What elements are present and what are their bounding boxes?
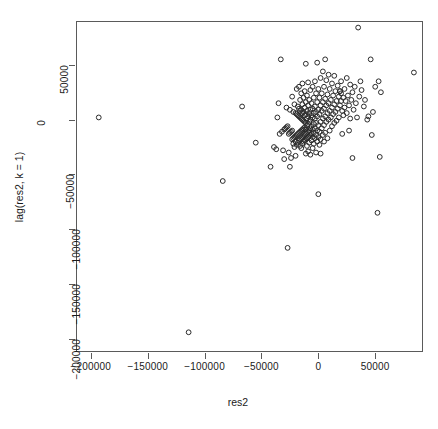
x-axis-tick-label: −150000 <box>127 361 168 372</box>
x-axis-tick <box>205 353 206 359</box>
y-axis-title: lag(res2, k = 1) <box>13 152 25 222</box>
x-axis-title: res2 <box>0 396 438 408</box>
x-axis-tick-label: −50000 <box>244 361 279 372</box>
y-axis-tick-label: −50000 <box>65 174 76 209</box>
plot-frame <box>76 21 423 352</box>
x-axis-title-text: res2 <box>228 396 248 408</box>
x-axis-tick <box>261 353 262 359</box>
y-axis-tick-label: −100000 <box>71 229 82 270</box>
x-axis-tick <box>318 353 319 359</box>
x-axis-tick <box>91 353 92 359</box>
x-axis-tick <box>148 353 149 359</box>
y-axis-tick-label: −150000 <box>71 284 82 325</box>
x-axis-tick-label: −100000 <box>184 361 225 372</box>
y-axis-tick-label: −200000 <box>71 339 82 380</box>
x-axis-tick <box>375 353 376 359</box>
y-axis-tick-label: 0 <box>36 120 47 126</box>
scatter-plot-figure: −200000−150000−100000−50000050000 500000… <box>0 0 438 429</box>
x-axis-tick-label: 0 <box>315 361 321 372</box>
x-axis-tick-label: 50000 <box>361 361 390 372</box>
y-axis-tick <box>69 120 75 121</box>
y-axis-tick-label: 50000 <box>59 65 70 94</box>
